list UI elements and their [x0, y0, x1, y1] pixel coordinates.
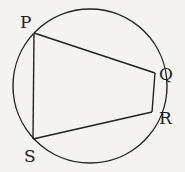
- edge-rs: [33, 112, 152, 139]
- edge-qr: [152, 73, 155, 112]
- label-q: Q: [159, 64, 173, 84]
- label-p: P: [20, 12, 31, 32]
- edge-sp: [33, 33, 34, 139]
- edge-pq: [34, 33, 155, 73]
- label-r: R: [159, 108, 173, 128]
- circle: [13, 9, 167, 163]
- diagram-canvas: P Q R S: [0, 0, 185, 172]
- label-s: S: [24, 146, 36, 166]
- cyclic-quadrilateral-figure: P Q R S: [0, 0, 185, 172]
